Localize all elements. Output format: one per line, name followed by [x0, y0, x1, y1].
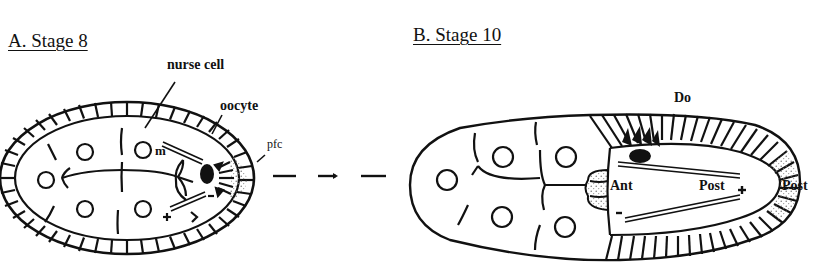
label-post-outer: Post — [782, 178, 808, 194]
oocyte-nucleus-b — [629, 149, 651, 163]
oocyte-nucleus — [200, 164, 214, 184]
nurse-cell-boundaries — [45, 128, 193, 234]
label-post-inner: Post — [699, 178, 725, 194]
diagram-svg — [0, 0, 820, 279]
stage10-egg-chamber — [410, 114, 800, 260]
microtubules — [162, 142, 206, 211]
label-oocyte: oocyte — [220, 98, 258, 114]
label-m: m — [155, 143, 166, 159]
dashed-arrow-connector — [273, 173, 386, 179]
diagram-canvas: A. Stage 8 B. Stage 10 — [0, 0, 820, 279]
label-pfc: pfc — [267, 137, 282, 152]
label-do: Do — [674, 90, 691, 106]
border-cells — [586, 170, 609, 210]
label-ant: Ant — [610, 178, 633, 194]
label-nurse-cell: nurse cell — [167, 57, 224, 73]
nurse-cell-nuclei — [38, 142, 151, 217]
polarity-marks-b — [616, 186, 746, 213]
